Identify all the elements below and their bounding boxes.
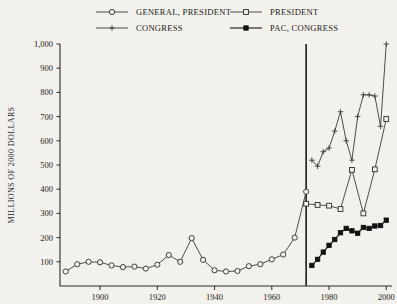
data-point-marker [321,250,325,254]
data-point-marker [201,257,206,262]
y-tick-label: 500 [40,160,53,170]
data-point-marker [350,167,355,172]
y-tick-label: 400 [40,184,53,194]
y-tick-label: 700 [40,112,53,122]
data-point-marker [373,224,377,228]
legend-marker-filled-square-icon [244,26,248,30]
data-point-marker [292,235,297,240]
data-point-marker [178,259,183,264]
data-point-marker [269,257,274,262]
data-point-marker [258,262,263,267]
y-tick-label: 100 [40,257,53,267]
data-point-marker [361,225,365,229]
data-point-marker [367,226,371,230]
data-point-marker [189,235,194,240]
y-axis-title-text: MILLIONS OF 2000 DOLLARS [7,107,16,224]
data-point-marker [212,268,217,273]
x-tick-label: 1980 [321,292,338,302]
legend-label: GENERAL, PRESIDENT [136,7,232,17]
data-point-marker [327,203,332,208]
data-point-marker [378,223,382,227]
data-point-marker [372,167,377,172]
y-axis-title: MILLIONS OF 2000 DOLLARS [7,107,16,224]
data-point-marker [120,265,125,270]
data-point-marker [355,231,359,235]
y-tick-label: 800 [40,87,53,97]
x-tick-label: 1960 [263,292,280,302]
data-point-marker [304,189,309,194]
x-tick-label: 1940 [206,292,223,302]
data-point-marker [235,268,240,273]
data-point-marker [384,117,389,122]
x-tick-label: 2000 [378,292,395,302]
y-tick-label: 600 [40,136,53,146]
data-point-marker [327,243,331,247]
data-point-marker [109,263,114,268]
legend-marker-open-square-icon [244,10,249,15]
data-point-marker [350,229,354,233]
y-tick-label: 300 [40,208,53,218]
legend-label: PAC, CONGRESS [270,23,338,33]
data-point-marker [97,260,102,265]
y-tick-label: 900 [40,63,53,73]
data-point-marker [384,218,388,222]
data-point-marker [338,231,342,235]
data-point-marker [281,252,286,257]
y-tick-label: 1,000 [34,39,53,49]
legend-label: CONGRESS [136,23,183,33]
x-tick-label: 1920 [149,292,166,302]
data-point-marker [166,252,171,257]
data-point-marker [143,266,148,271]
data-point-marker [338,207,343,212]
data-point-marker [315,257,319,261]
data-point-marker [132,264,137,269]
legend-label: PRESIDENT [270,7,319,17]
campaign-spending-line-chart: GENERAL, PRESIDENTPRESIDENTCONGRESSPAC, … [0,0,397,304]
data-point-marker [304,201,309,206]
data-point-marker [310,263,314,267]
data-point-marker [155,262,160,267]
data-point-marker [75,262,80,267]
data-point-marker [63,269,68,274]
data-point-marker [344,226,348,230]
legend-marker-open-circle-icon [109,9,114,14]
data-point-marker [246,264,251,269]
x-tick-label: 1900 [92,292,109,302]
data-point-marker [223,269,228,274]
data-point-marker [315,203,320,208]
data-point-marker [333,237,337,241]
data-point-marker [86,259,91,264]
data-point-marker [361,211,366,216]
chart-figure: GENERAL, PRESIDENTPRESIDENTCONGRESSPAC, … [0,0,397,304]
y-tick-label: 200 [40,233,53,243]
